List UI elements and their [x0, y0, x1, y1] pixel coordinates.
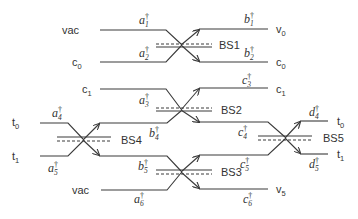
bs-label-bs2: BS2 [221, 104, 242, 116]
op-b5-operator: b†5 [138, 158, 148, 175]
op-a2-operator: a†2 [139, 45, 149, 62]
bs-label-bs1: BS1 [219, 39, 240, 51]
in-c0-label: c0 [72, 56, 82, 71]
in-vac-bottom-label: vac [72, 184, 90, 196]
in-t1-label: t1 [12, 150, 19, 165]
op-a5-operator: a†5 [48, 160, 58, 177]
out-t1-label: t1 [337, 148, 344, 163]
bs-label-bs5: BS5 [323, 132, 344, 144]
bs-label-bs4: BS4 [121, 134, 142, 146]
op-a1-operator: a†1 [139, 12, 149, 29]
out-t0-label: t0 [337, 115, 344, 130]
op-b4-operator: b†4 [149, 125, 159, 142]
op-a6-operator: a†6 [134, 191, 144, 208]
in-t0-label: t0 [12, 116, 19, 131]
op-b1-operator: b†1 [244, 11, 254, 28]
arrow-bs4-out-top [83, 124, 99, 140]
operator-labels: a†1a†2b†1b†2a†3c†3a†4b†4c†4d†4a†5b†5c†5d… [48, 11, 319, 208]
op-c3-operator: c†3 [242, 72, 251, 89]
bs4-wires [40, 123, 111, 156]
wire-t1-to-bs4 [40, 141, 83, 156]
op-d4-operator: d†4 [309, 104, 319, 121]
in-vac-top-label: vac [62, 24, 80, 36]
beam-splitter-diagram: BS1BS2BS3BS4BS5 vacc0c1t0t1vacv0c0c1t0t1… [0, 0, 358, 219]
out-c1-label: c1 [276, 83, 286, 98]
arrow-bs2-out-top [181, 89, 199, 110]
out-v0-label: v0 [276, 23, 286, 38]
bs2-wires [99, 88, 285, 137]
op-c4-operator: c†4 [238, 124, 247, 141]
op-c6-operator: c†6 [243, 191, 252, 208]
out-v5-label: v5 [276, 183, 286, 198]
in-c1-label: c1 [82, 83, 92, 98]
bs1-wires [100, 29, 268, 62]
wire-vac-to-bs3 [101, 173, 181, 190]
arrow-bs1-out-top [181, 30, 199, 45]
op-b2-operator: b†2 [244, 45, 254, 62]
arrow-bs4-out-bottom [83, 140, 99, 155]
bs3-wires [99, 139, 285, 190]
op-a3-operator: a†3 [139, 92, 149, 109]
diagram-svg: BS1BS2BS3BS4BS5 vacc0c1t0t1vacv0c0c1t0t1… [0, 0, 358, 219]
arrow-bs5-out-bottom [285, 138, 300, 153]
op-d5-operator: d†5 [309, 156, 319, 173]
bs5-wires [258, 121, 328, 154]
wire-c5-to-bs5 [199, 139, 285, 155]
wire-b4-to-bs2 [99, 111, 181, 123]
op-a4-operator: a†4 [52, 105, 62, 122]
arrow-bs2-out-bottom [181, 110, 199, 122]
wire-vac-to-bs1 [100, 30, 181, 44]
bs-label-bs3: BS3 [221, 166, 242, 178]
out-c0-label: c0 [276, 56, 286, 71]
op-c5-operator: c†5 [240, 156, 249, 173]
